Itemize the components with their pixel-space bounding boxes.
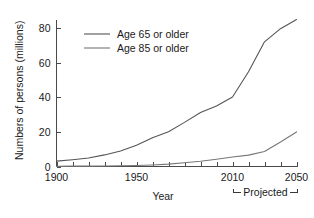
- x-axis-tick-label: 1950: [125, 171, 149, 183]
- series-line-65-plus: [57, 20, 297, 162]
- legend-label-85-plus: Age 85 or older: [117, 42, 189, 54]
- x-axis-tick-label: 2010: [221, 171, 245, 183]
- projected-label: Projected: [243, 186, 288, 198]
- series-line-85-plus: [57, 132, 297, 166]
- y-axis-tick-label: 60: [39, 57, 51, 69]
- legend-label-65-plus: Age 65 or older: [117, 28, 189, 40]
- y-axis-tick-label: 20: [39, 126, 51, 138]
- y-axis-title: Numbers of persons (millions): [13, 21, 25, 160]
- x-axis-title: Year: [152, 190, 174, 202]
- y-axis-tick-labels: 020406080: [39, 22, 51, 173]
- y-axis-tick-label: 80: [39, 22, 51, 34]
- chart-legend: Age 65 or olderAge 85 or older: [84, 28, 189, 54]
- chart-container: Numbers of persons (millions) 020406080 …: [0, 0, 314, 218]
- y-axis-tick-label: 40: [39, 91, 51, 103]
- line-chart: Numbers of persons (millions) 020406080 …: [0, 0, 314, 218]
- x-axis-tick-labels: 1900195020102050: [45, 171, 309, 183]
- projected-annotation: Projected: [234, 186, 298, 198]
- y-axis-ticks: [57, 29, 61, 168]
- x-axis-tick-label: 2050: [285, 171, 309, 183]
- x-axis-tick-label: 1900: [45, 171, 69, 183]
